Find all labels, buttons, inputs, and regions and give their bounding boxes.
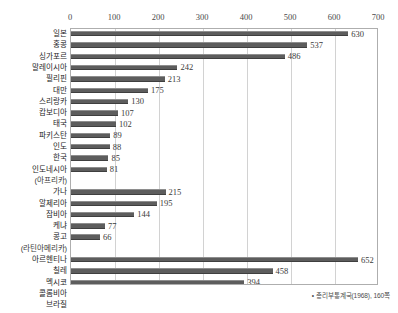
x-tick-label: 100 (108, 11, 121, 23)
category-label: 콜롬비아 (0, 288, 67, 299)
bar (71, 76, 165, 81)
bar-row: 130 (71, 97, 377, 108)
bar-value-label: 630 (351, 29, 364, 40)
bar-row: 85 (71, 153, 377, 164)
bar-row: 394 (71, 278, 377, 285)
bar (71, 212, 134, 217)
x-tick-label: 600 (328, 11, 341, 23)
bar-value-label: 88 (113, 142, 122, 153)
bar (71, 99, 128, 104)
bar-row: 652 (71, 255, 377, 266)
x-tick-label: 200 (152, 11, 165, 23)
category-label: 잠비아 (0, 209, 67, 220)
category-label: 브라질 (0, 299, 67, 310)
category-label: 알제리아 (0, 198, 67, 209)
bar-rows: 6305374862422131751301071028988858121519… (71, 29, 377, 284)
bar (71, 42, 307, 47)
bar-value-label: 89 (113, 130, 122, 141)
plot-area: 6305374862422131751301071028988858121519… (70, 28, 378, 285)
bar (71, 234, 100, 239)
bar-row: 66 (71, 232, 377, 243)
source-footnote: •총리부통계국(1968), 160쪽 (312, 291, 390, 300)
bar-value-label: 195 (160, 198, 173, 209)
x-tick-label: 400 (240, 11, 253, 23)
category-label: 태국 (0, 118, 67, 129)
x-tick-label: 700 (372, 11, 385, 23)
category-label: 홍콩 (0, 39, 67, 50)
category-labels: 일본홍콩싱가포르말레이시아필리핀대만스리랑카캄보디아태국파키스탄인도한국인도네시… (0, 28, 67, 285)
bar-value-label: 486 (288, 51, 301, 62)
bar (71, 133, 110, 138)
bar-value-label: 81 (110, 164, 119, 175)
bar (71, 167, 107, 172)
category-label: 가나 (0, 186, 67, 197)
bar-value-label: 537 (310, 40, 323, 51)
bar (71, 110, 118, 115)
bar (71, 201, 157, 206)
category-label: 인도네시아 (0, 164, 67, 175)
bar (71, 54, 285, 59)
x-tick-label: 500 (284, 11, 297, 23)
bar-row: 77 (71, 221, 377, 232)
bar-row: 144 (71, 210, 377, 221)
bar-value-label: 394 (247, 277, 260, 285)
bar-value-label: 652 (361, 255, 374, 266)
category-label: 일본 (0, 28, 67, 39)
bar-value-label: 130 (131, 96, 144, 107)
bar (71, 268, 273, 273)
category-label: 한국 (0, 152, 67, 163)
bar-row: 242 (71, 63, 377, 74)
bar-row: 537 (71, 40, 377, 51)
bar (71, 88, 148, 93)
bar (71, 65, 177, 70)
bar (71, 144, 110, 149)
bar-value-label: 144 (137, 209, 150, 220)
category-label: 멕시코 (0, 277, 67, 288)
bar-value-label: 77 (108, 221, 117, 232)
bar-row: 215 (71, 187, 377, 198)
category-label: 칠레 (0, 265, 67, 276)
bar-row: 486 (71, 52, 377, 63)
footnote-text: 총리부통계국(1968), 160쪽 (316, 292, 390, 299)
bar-value-label: 175 (151, 85, 164, 96)
bar (71, 189, 166, 194)
bar-value-label: 242 (180, 62, 193, 73)
category-label: 콩고 (0, 231, 67, 242)
bar-row (71, 244, 377, 255)
bar (71, 223, 105, 228)
bar-row: 102 (71, 119, 377, 130)
bar-row (71, 176, 377, 187)
bar (71, 121, 116, 126)
bar-value-label: 102 (119, 119, 132, 130)
bar-value-label: 458 (276, 266, 289, 277)
category-label: 스리랑카 (0, 96, 67, 107)
category-label: 케냐 (0, 220, 67, 231)
category-label: 인도 (0, 141, 67, 152)
bar-row: 195 (71, 199, 377, 210)
bar-value-label: 107 (121, 108, 134, 119)
category-label: 캄보디아 (0, 107, 67, 118)
footnote-bullet: • (312, 291, 314, 300)
bar-value-label: 213 (168, 74, 181, 85)
bar (71, 280, 244, 285)
bar-chart: 0100200300400500600700 63053748624221317… (0, 0, 398, 313)
bar (71, 257, 358, 262)
bar (71, 155, 108, 160)
bar-value-label: 66 (103, 232, 112, 243)
bar-value-label: 85 (111, 153, 120, 164)
category-label: 싱가포르 (0, 51, 67, 62)
bar-row: 81 (71, 165, 377, 176)
category-label: (라틴아메리카) (0, 243, 67, 254)
bar-row: 630 (71, 29, 377, 40)
x-tick-label: 300 (196, 11, 209, 23)
bar-row: 107 (71, 108, 377, 119)
category-label: 파키스탄 (0, 130, 67, 141)
bar-row: 458 (71, 266, 377, 277)
category-label: 아르헨티나 (0, 254, 67, 265)
category-label: 말레이시아 (0, 62, 67, 73)
bar-value-label: 215 (169, 187, 182, 198)
bar-row: 88 (71, 142, 377, 153)
category-label: (아프리카) (0, 175, 67, 186)
category-label: 필리핀 (0, 73, 67, 84)
bar-row: 213 (71, 74, 377, 85)
